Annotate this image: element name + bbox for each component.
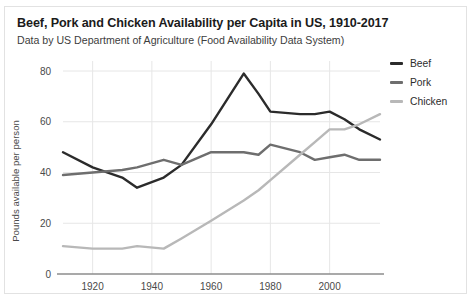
- legend-label-pork: Pork: [410, 77, 431, 88]
- chart-title: Beef, Pork and Chicken Availability per …: [17, 16, 388, 30]
- y-axis-ticks: 020406080: [40, 66, 52, 280]
- legend-item-beef[interactable]: Beef: [390, 54, 447, 73]
- y-axis-label: Pounds available per person: [10, 120, 21, 242]
- y-tick-label: 20: [40, 218, 52, 229]
- chart-legend: Beef Pork Chicken: [390, 54, 447, 111]
- chart-card: Beef, Pork and Chicken Availability per …: [4, 6, 467, 294]
- legend-swatch-beef: [390, 62, 403, 66]
- legend-item-pork[interactable]: Pork: [390, 73, 447, 92]
- x-axis-ticks: 19201940196019802000: [82, 281, 342, 292]
- x-tick-label: 1920: [82, 281, 105, 292]
- gridlines: [63, 61, 380, 274]
- y-tick-label: 40: [40, 167, 52, 178]
- y-tick-label: 80: [40, 66, 52, 77]
- y-tick-label: 60: [40, 116, 52, 127]
- legend-swatch-chicken: [390, 100, 403, 104]
- y-tick-label: 0: [45, 269, 51, 280]
- chart-subtitle: Data by US Department of Agriculture (Fo…: [17, 34, 344, 46]
- legend-swatch-pork: [390, 81, 403, 85]
- x-tick-label: 1980: [259, 281, 282, 292]
- legend-item-chicken[interactable]: Chicken: [390, 92, 447, 111]
- legend-label-chicken: Chicken: [410, 96, 447, 107]
- legend-label-beef: Beef: [410, 58, 431, 69]
- x-tick-label: 1960: [200, 281, 223, 292]
- x-tick-label: 1940: [141, 281, 164, 292]
- x-tick-label: 2000: [319, 281, 342, 292]
- series-line-chicken: [63, 114, 380, 248]
- data-series: [63, 74, 380, 249]
- series-line-pork: [63, 145, 380, 175]
